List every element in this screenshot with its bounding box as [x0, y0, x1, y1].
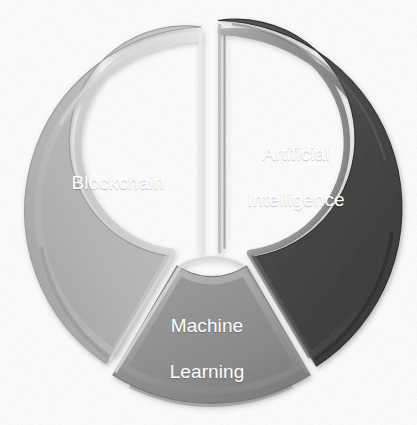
pie-chart: Artificial Intelligence Machine Learning…	[0, 0, 417, 425]
pie-chart-canvas	[0, 0, 417, 425]
